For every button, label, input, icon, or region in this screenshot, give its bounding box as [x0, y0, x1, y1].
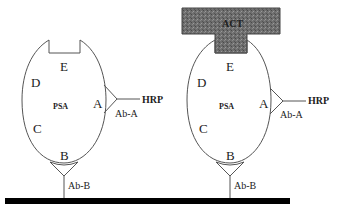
panel-psa-act-complex: ACT E D A C B PSA HRP Ab-A Ab-B	[182, 8, 329, 198]
panel-free-psa: E D A C B PSA HRP Ab-A Ab-B	[22, 40, 163, 198]
epitope-a: A	[259, 96, 269, 111]
epitope-c: C	[33, 121, 42, 136]
solid-phase-surface	[5, 198, 290, 204]
epitope-e: E	[226, 59, 234, 74]
epitope-d: D	[197, 75, 206, 90]
hrp-label: HRP	[142, 94, 163, 105]
epitope-c: C	[199, 121, 208, 136]
epitope-e: E	[60, 59, 68, 74]
epitope-b: B	[226, 148, 235, 163]
ab-a-label: Ab-A	[115, 108, 139, 119]
ab-b-label: Ab-B	[234, 180, 257, 191]
epitope-b: B	[60, 148, 69, 163]
psa-sandwich-assay-diagram: E D A C B PSA HRP Ab-A Ab-B ACT E D A C	[0, 0, 341, 210]
act-stem	[216, 34, 246, 52]
act-label: ACT	[222, 18, 243, 29]
psa-label: PSA	[53, 102, 68, 111]
psa-label: PSA	[219, 102, 234, 111]
ab-a-label: Ab-A	[280, 109, 304, 120]
hrp-label: HRP	[308, 95, 329, 106]
ab-b-label: Ab-B	[68, 180, 91, 191]
epitope-a: A	[93, 96, 103, 111]
epitope-d: D	[31, 75, 40, 90]
